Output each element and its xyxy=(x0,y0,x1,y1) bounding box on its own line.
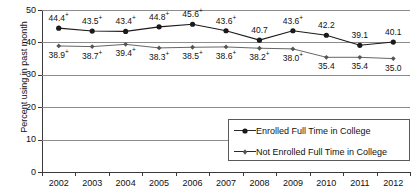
data-point xyxy=(257,46,262,51)
data-label: 39.4+ xyxy=(115,49,135,58)
data-point xyxy=(157,46,162,51)
data-point xyxy=(56,26,61,31)
data-label: 43.4+ xyxy=(115,17,135,26)
data-label: 45.6+ xyxy=(182,10,202,19)
data-point xyxy=(90,44,95,49)
data-point xyxy=(324,55,329,60)
data-label: 43.5+ xyxy=(82,17,102,26)
series-line xyxy=(59,24,394,45)
data-point xyxy=(290,28,295,33)
legend-item-enrolled[interactable]: Enrolled Full Time in College xyxy=(229,120,411,141)
legend-item-not-enrolled[interactable]: Not Enrolled Full Time in College xyxy=(229,141,411,162)
data-point xyxy=(324,33,329,38)
legend-label-enrolled: Enrolled Full Time in College xyxy=(256,126,371,136)
data-point xyxy=(224,45,229,50)
data-point xyxy=(391,39,396,44)
data-label: 38.3+ xyxy=(149,53,169,62)
data-point xyxy=(190,45,195,50)
data-point xyxy=(257,38,262,43)
data-label: 38.9+ xyxy=(49,51,69,60)
data-point xyxy=(190,22,195,27)
data-point xyxy=(357,43,362,48)
data-label: 35.4 xyxy=(352,62,369,71)
data-label: 43.6+ xyxy=(283,17,303,26)
data-label: 35.0 xyxy=(385,64,402,73)
data-point xyxy=(123,29,128,34)
small-diamond-icon xyxy=(234,146,256,158)
legend-label-not-enrolled: Not Enrolled Full Time in College xyxy=(256,147,387,157)
data-label: 44.4+ xyxy=(49,14,69,23)
data-label: 40.1 xyxy=(385,28,402,37)
data-point xyxy=(90,28,95,33)
legend: Enrolled Full Time in College Not Enroll… xyxy=(228,119,410,161)
data-point xyxy=(223,28,228,33)
data-label: 38.0+ xyxy=(283,54,303,63)
data-point xyxy=(391,56,396,61)
data-label: 38.6+ xyxy=(216,52,236,61)
data-point xyxy=(291,46,296,51)
data-point xyxy=(156,24,161,29)
data-point xyxy=(123,42,128,47)
data-label: 38.7+ xyxy=(82,52,102,61)
data-label: 38.2+ xyxy=(249,53,269,62)
data-point xyxy=(357,55,362,60)
filled-circle-icon xyxy=(234,125,256,137)
data-label: 40.7 xyxy=(251,26,268,35)
data-label: 42.2 xyxy=(318,21,335,30)
data-label: 39.1 xyxy=(352,31,369,40)
line-chart: Percent using in past month 01020304050 … xyxy=(0,0,414,196)
data-point xyxy=(56,44,61,49)
data-label: 38.5+ xyxy=(182,52,202,61)
data-label: 44.8+ xyxy=(149,13,169,22)
data-label: 43.6+ xyxy=(216,17,236,26)
data-label: 35.4 xyxy=(318,62,335,71)
